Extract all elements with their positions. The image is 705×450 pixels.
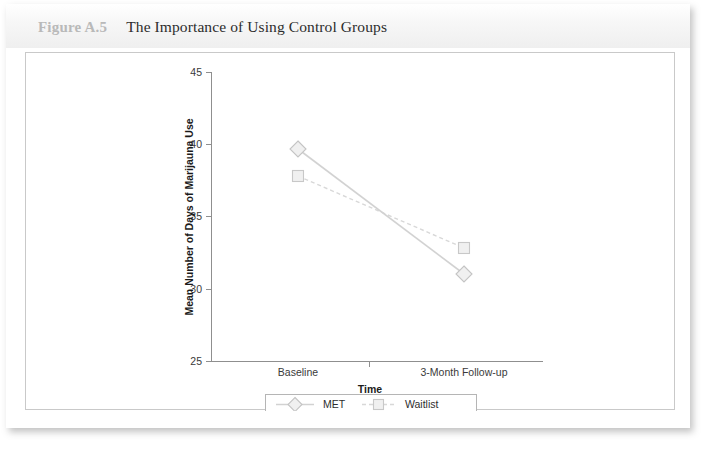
waitlist-point-followup [459, 243, 470, 254]
figure-frame: 45 40 35 30 25 Mean Number of Days of Ma… [25, 52, 675, 410]
figure-title-label: The Importance of Using Control Groups [126, 18, 387, 35]
figure-page: Figure A.5The Importance of Using Contro… [0, 0, 705, 450]
caption: Figure A.5The Importance of Using Contro… [38, 18, 387, 36]
y-tick-label-25: 25 [190, 355, 202, 367]
met-series-line [298, 149, 464, 274]
y-tick-label-45: 45 [190, 66, 202, 78]
met-point-followup [456, 266, 472, 282]
figure-sheet: Figure A.5The Importance of Using Contro… [6, 4, 690, 428]
y-axis-title: Mean Number of Days of Marijauna Use [183, 118, 195, 315]
figure-number-label: Figure A.5 [38, 19, 107, 35]
caption-band: Figure A.5The Importance of Using Contro… [6, 4, 690, 48]
met-point-baseline [290, 141, 306, 157]
waitlist-point-baseline [293, 171, 304, 182]
x-category-label-followup: 3-Month Follow-up [421, 366, 508, 378]
x-axis-title: Time [358, 383, 382, 395]
line-chart: 45 40 35 30 25 Mean Number of Days of Ma… [26, 53, 676, 411]
x-category-label-baseline: Baseline [278, 366, 318, 378]
legend-waitlist-marker [374, 400, 384, 410]
legend-label-met: MET [323, 398, 346, 410]
legend-label-waitlist: Waitlist [405, 398, 439, 410]
